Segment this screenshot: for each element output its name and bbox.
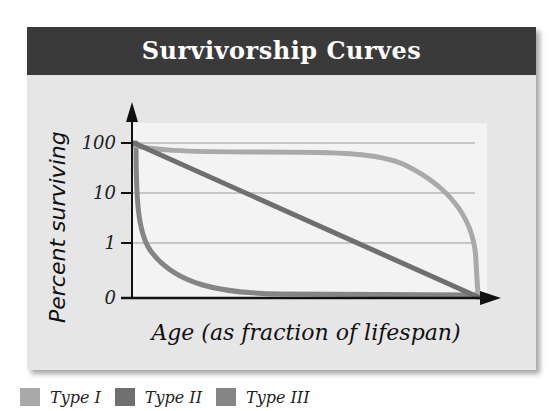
x-axis-arrow-icon (480, 291, 501, 305)
ytick-0: 0 (105, 287, 116, 308)
legend-swatch-type-ii (115, 388, 135, 406)
legend-swatch-type-iii (216, 388, 236, 406)
ytick-100: 100 (82, 132, 116, 153)
legend: Type I Type II Type III (20, 386, 323, 408)
x-axis-label: Age (as fraction of lifespan) (149, 320, 460, 345)
y-axis-label: Percent surviving (45, 131, 70, 323)
ytick-1: 1 (105, 232, 116, 253)
legend-item-type-ii: Type II (115, 388, 202, 407)
legend-item-type-iii: Type III (216, 388, 309, 407)
ytick-10: 10 (93, 182, 116, 203)
plot-area: 100 10 1 0 Percent surviving Age (as fra… (0, 0, 560, 411)
y-axis-arrow-icon (126, 102, 138, 122)
legend-item-type-i: Type I (20, 388, 101, 407)
legend-swatch-type-i (20, 388, 40, 406)
